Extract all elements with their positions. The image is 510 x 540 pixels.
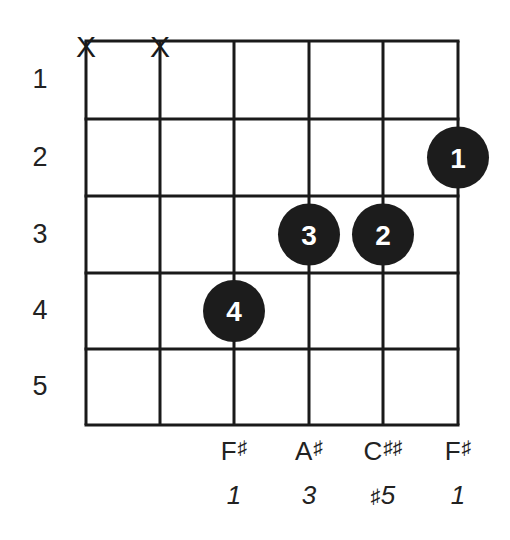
interval-label: 1 (199, 480, 269, 511)
note-label: A♯ (274, 436, 344, 467)
finger-number: 1 (450, 143, 466, 174)
muted-strings: XX (76, 30, 170, 63)
finger-dot: 2 (352, 204, 414, 266)
fret-number: 5 (25, 371, 55, 402)
finger-number: 4 (226, 296, 242, 327)
finger-dot: 4 (203, 280, 265, 342)
note-label: F♯ (423, 436, 493, 467)
interval-label: 1 (423, 480, 493, 511)
finger-dot: 3 (278, 204, 340, 266)
finger-dots: 4321 (203, 127, 489, 343)
fret-number: 4 (25, 295, 55, 326)
interval-label: 3 (274, 480, 344, 511)
fret-number: 3 (25, 219, 55, 250)
muted-x-icon: X (76, 30, 96, 63)
note-label: C♯♯ (348, 436, 418, 467)
finger-number: 2 (375, 220, 391, 251)
fret-number: 1 (25, 64, 55, 95)
fret-number: 2 (25, 142, 55, 173)
interval-label: ♯5 (348, 480, 418, 511)
note-label: F♯ (199, 436, 269, 467)
finger-dot: 1 (427, 127, 489, 189)
muted-x-icon: X (150, 30, 170, 63)
finger-number: 3 (301, 220, 317, 251)
